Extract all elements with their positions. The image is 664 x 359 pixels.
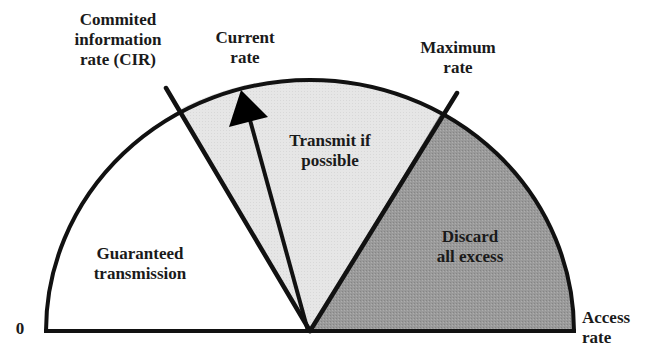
current-rate-label: Current rate (200, 28, 290, 68)
zero-label: 0 (10, 319, 30, 339)
maximum-rate-label: Maximum rate (408, 38, 508, 78)
region-label-discard: Discard all excess (410, 227, 530, 267)
frame-relay-rate-gauge: Commited information rate (CIR) Current … (0, 0, 664, 359)
cir-label: Commited information rate (CIR) (58, 10, 178, 70)
region-label-guaranteed: Guaranteed transmission (70, 244, 210, 284)
region-label-transmit-if-possible: Transmit if possible (270, 131, 390, 171)
access-rate-label: Access rate (582, 308, 648, 348)
